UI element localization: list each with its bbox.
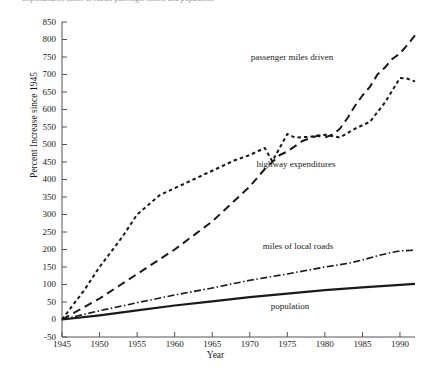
series-annotation: population xyxy=(271,302,310,311)
chart-plot-area xyxy=(0,0,431,368)
x-tick-label: 1960 xyxy=(155,340,195,349)
axes xyxy=(62,22,415,337)
series-annotation: miles of local roads xyxy=(263,242,334,251)
x-axis-label: Year xyxy=(0,350,431,360)
data-series xyxy=(62,35,415,319)
y-tick-label: 450 xyxy=(20,158,56,167)
y-tick-label: 350 xyxy=(20,193,56,202)
x-tick-label: 1975 xyxy=(267,340,307,349)
y-tick-label: 850 xyxy=(20,18,56,27)
y-tick-label: 0 xyxy=(20,315,56,324)
x-tick-label: 1970 xyxy=(230,340,270,349)
y-tick-label: 100 xyxy=(20,280,56,289)
y-tick-label: 550 xyxy=(20,123,56,132)
y-tick-label: 750 xyxy=(20,53,56,62)
y-tick-label: 300 xyxy=(20,210,56,219)
y-tick-label: 400 xyxy=(20,175,56,184)
y-tick-label: 150 xyxy=(20,263,56,272)
chart-figure: Expenditures, miles of roads, passenger … xyxy=(0,0,431,368)
x-tick-label: 1945 xyxy=(42,340,82,349)
y-tick-label: 600 xyxy=(20,105,56,114)
x-tick-label: 1980 xyxy=(305,340,345,349)
y-tick-label: 50 xyxy=(20,298,56,307)
y-tick-label: 800 xyxy=(20,35,56,44)
series-line xyxy=(62,284,415,320)
y-tick-label: 650 xyxy=(20,88,56,97)
y-tick-label: 700 xyxy=(20,70,56,79)
y-tick-label: 500 xyxy=(20,140,56,149)
y-tick-label: 250 xyxy=(20,228,56,237)
series-annotation: highway expenditures xyxy=(256,160,335,169)
series-line xyxy=(62,35,415,319)
series-annotation: passenger miles driven xyxy=(251,53,333,62)
x-tick-label: 1965 xyxy=(192,340,232,349)
series-line xyxy=(62,250,415,319)
x-tick-label: 1955 xyxy=(117,340,157,349)
x-tick-label: 1950 xyxy=(80,340,120,349)
x-tick-label: 1985 xyxy=(342,340,382,349)
y-tick-label: 200 xyxy=(20,245,56,254)
x-tick-label: 1990 xyxy=(380,340,420,349)
